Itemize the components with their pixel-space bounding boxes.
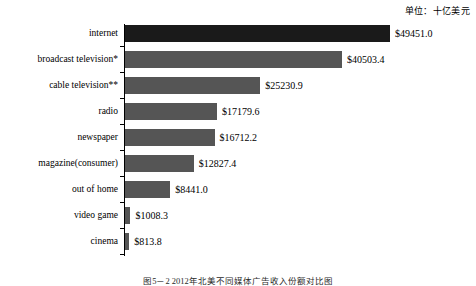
bar-row: cable television**$25230.9 <box>0 77 476 94</box>
category-label: internet <box>0 25 118 42</box>
bar <box>125 155 194 172</box>
bar-row: newspaper$16712.2 <box>0 129 476 146</box>
axis-tick <box>120 202 124 203</box>
bar <box>125 51 342 68</box>
bar <box>125 233 129 250</box>
bar-value-label: $40503.4 <box>347 51 385 68</box>
bar-value-label: $1008.3 <box>135 207 168 224</box>
category-label: video game <box>0 207 118 224</box>
bar-value-label: $25230.9 <box>265 77 303 94</box>
axis-tick <box>120 228 124 229</box>
category-label: radio <box>0 103 118 120</box>
bar <box>125 207 130 224</box>
bar <box>125 129 215 146</box>
bar-value-label: $12827.4 <box>199 155 237 172</box>
bar-row: video game$1008.3 <box>0 207 476 224</box>
category-label: broadcast television* <box>0 51 118 68</box>
bar-value-label: $8441.0 <box>175 181 208 198</box>
bar-value-label: $813.8 <box>134 233 162 250</box>
bar-row: cinema$813.8 <box>0 233 476 250</box>
bar <box>125 181 170 198</box>
bar-value-label: $16712.2 <box>220 129 258 146</box>
axis-tick <box>120 72 124 73</box>
axis-tick <box>120 98 124 99</box>
axis-tick <box>120 150 124 151</box>
category-label: newspaper <box>0 129 118 146</box>
axis-tick <box>120 254 124 255</box>
axis-tick <box>120 176 124 177</box>
bar-row: internet$49451.0 <box>0 25 476 42</box>
bar-row: radio$17179.6 <box>0 103 476 120</box>
bar-row: broadcast television*$40503.4 <box>0 51 476 68</box>
bar-value-label: $17179.6 <box>222 103 260 120</box>
unit-note: 单位：十亿美元 <box>405 4 470 17</box>
bar-row: magazine(consumer)$12827.4 <box>0 155 476 172</box>
bar-chart-plot-area: internet$49451.0broadcast television*$40… <box>0 24 476 260</box>
category-label: cinema <box>0 233 118 250</box>
axis-tick <box>120 46 124 47</box>
figure-caption: 图5－2 2012年北美不同媒体广告收入份额对比图 <box>0 274 476 286</box>
bar <box>125 25 390 42</box>
category-label: magazine(consumer) <box>0 155 118 172</box>
bar-value-label: $49451.0 <box>395 25 433 42</box>
bar-row: out of home$8441.0 <box>0 181 476 198</box>
category-label: cable television** <box>0 77 118 94</box>
bar <box>125 77 260 94</box>
axis-tick <box>120 124 124 125</box>
bar <box>125 103 217 120</box>
category-label: out of home <box>0 181 118 198</box>
